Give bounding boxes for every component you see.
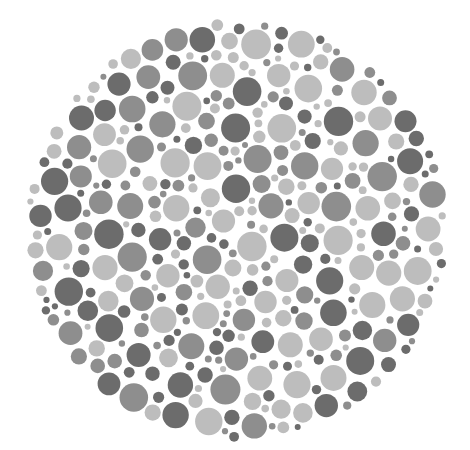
plate-dot [388, 133, 404, 149]
plate-dot [268, 91, 279, 102]
plate-dot [304, 64, 311, 71]
plate-dot [364, 67, 375, 78]
plate-dot [161, 81, 175, 95]
plate-dot [348, 162, 356, 170]
plate-dot [205, 210, 212, 217]
plate-dot [54, 194, 81, 221]
plate-dot [164, 335, 175, 346]
plate-dot [174, 329, 181, 336]
plate-dot [160, 191, 167, 198]
plate-dot [267, 64, 290, 87]
plate-dot [121, 49, 141, 69]
plate-dot [223, 161, 233, 171]
plate-dot [330, 57, 355, 82]
plate-dot [305, 133, 321, 149]
plate-dot [197, 293, 204, 300]
plate-dot [102, 180, 111, 189]
plate-dot [119, 96, 146, 123]
plate-dot [211, 90, 222, 101]
plate-dot [373, 250, 384, 261]
plate-dot [271, 174, 278, 181]
plate-dot [186, 52, 193, 59]
plate-dot [427, 286, 433, 292]
plate-dot [209, 341, 224, 356]
plate-dot [193, 245, 222, 274]
plate-dot [244, 145, 272, 173]
plate-dot [349, 255, 374, 280]
plate-dot [350, 218, 358, 226]
plate-dot [249, 198, 255, 204]
plate-dot [89, 340, 105, 356]
plate-dot [249, 69, 256, 76]
plate-dot [291, 306, 299, 314]
plate-dot [123, 221, 129, 227]
plate-dot [131, 223, 145, 237]
plate-dot [221, 33, 238, 50]
plate-dot [395, 110, 417, 132]
plate-dot [195, 408, 222, 435]
plate-dot [55, 277, 83, 305]
plate-dot [425, 150, 433, 158]
plate-dot [190, 27, 216, 53]
plate-dot [295, 312, 312, 329]
plate-dot [261, 405, 269, 413]
plate-dot [118, 243, 147, 272]
plate-dot [314, 297, 320, 303]
plate-dot [183, 317, 190, 324]
plate-dot [63, 263, 70, 270]
plate-dot [178, 333, 204, 359]
plate-dot [299, 129, 306, 136]
plate-dot [356, 196, 381, 221]
plate-dot [224, 260, 241, 277]
plate-dot [274, 44, 283, 53]
plate-dot [371, 221, 396, 246]
plate-dot [205, 134, 218, 147]
plate-dot [285, 208, 300, 223]
plate-dot [234, 24, 245, 35]
plate-dot [283, 362, 292, 371]
plate-dot [192, 302, 219, 329]
plate-dot [94, 100, 115, 121]
plate-dot [70, 165, 92, 187]
plate-dot [231, 147, 240, 156]
plate-dot [153, 342, 161, 350]
plate-dot [130, 166, 141, 177]
plate-dot [90, 155, 97, 162]
plate-dot [224, 301, 232, 309]
plate-dot [327, 139, 333, 145]
plate-dot [388, 213, 397, 222]
plate-dot [136, 65, 160, 89]
plate-dot [241, 30, 271, 60]
plate-dot [73, 260, 90, 277]
plate-dot [188, 394, 202, 408]
plate-dot [253, 175, 271, 193]
plate-dot [348, 296, 354, 302]
plate-dot [259, 225, 268, 234]
plate-dot [258, 193, 283, 218]
plate-dot [368, 162, 397, 191]
plate-dot [255, 119, 263, 127]
plate-dot [62, 159, 72, 169]
plate-dot [298, 192, 320, 214]
plate-dot [346, 347, 374, 375]
plate-dot [293, 403, 313, 423]
plate-dot [409, 338, 415, 344]
plate-dot [179, 259, 189, 269]
plate-dot [418, 294, 433, 309]
plate-dot [294, 255, 312, 273]
plate-dot [295, 75, 323, 103]
plate-dot [339, 330, 351, 342]
plate-dot [145, 367, 159, 381]
plate-dot [78, 244, 89, 255]
plate-dot [168, 372, 193, 397]
plate-dot [90, 359, 105, 374]
plate-dot [353, 130, 379, 156]
plate-dot [268, 114, 297, 143]
plate-dot [278, 332, 303, 357]
plate-dot [156, 264, 179, 287]
plate-dot [223, 310, 230, 317]
plate-dot [152, 284, 159, 291]
plate-dot [100, 74, 106, 80]
plate-dot [286, 199, 292, 205]
plate-dot [239, 61, 248, 70]
